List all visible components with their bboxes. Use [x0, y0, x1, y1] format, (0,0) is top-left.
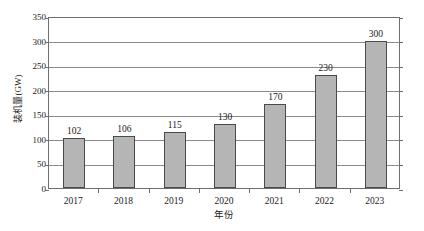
plot-area: 102106115130170230300	[48, 17, 400, 189]
bar	[365, 41, 387, 188]
y-axis-tick-label: 350	[33, 13, 47, 22]
x-axis-title: 年份	[48, 209, 400, 221]
bar	[214, 124, 236, 188]
x-axis-tick-labels: 2017201820192020202120222023	[48, 195, 400, 209]
bar-value-label: 130	[218, 112, 232, 122]
x-axis-tick-label: 2022	[315, 195, 334, 207]
y-axis-tick-label: 300	[33, 37, 47, 46]
x-axis-tick-label: 2023	[365, 195, 384, 207]
bar	[264, 104, 286, 188]
bar-value-label: 170	[268, 92, 282, 102]
bar-value-label: 102	[67, 126, 81, 136]
bar	[113, 136, 135, 188]
bar	[63, 138, 85, 188]
x-axis-tick-label: 2019	[164, 195, 183, 207]
x-axis-minor-tick	[98, 189, 99, 193]
x-axis-minor-tick	[350, 189, 351, 193]
bars-layer: 102106115130170230300	[49, 18, 399, 188]
x-axis-tick-label: 2018	[114, 195, 133, 207]
bar	[315, 75, 337, 188]
bar-value-label: 106	[117, 124, 131, 134]
y-axis-tick-mark-right	[399, 67, 403, 68]
x-axis-tick-label: 2021	[265, 195, 284, 207]
bar	[164, 132, 186, 189]
x-axis-tick-label: 2017	[64, 195, 83, 207]
bar-value-label: 300	[369, 29, 383, 39]
y-axis-tick-mark-right	[399, 165, 403, 166]
x-axis-tick-label: 2020	[215, 195, 234, 207]
y-axis-tick-mark-right	[399, 42, 403, 43]
x-axis-minor-tick	[299, 189, 300, 193]
y-axis-tick-label: 150	[33, 111, 47, 120]
y-axis-tick-label: 100	[33, 135, 47, 144]
x-axis-minor-tick	[249, 189, 250, 193]
x-axis-minor-tick	[149, 189, 150, 193]
y-axis-tick-label: 250	[33, 62, 47, 71]
x-axis-minor-ticks	[48, 189, 400, 194]
y-axis-tick-mark-right	[399, 91, 403, 92]
y-axis-tick-mark-right	[399, 140, 403, 141]
y-axis-tick-labels: 050100150200250300350	[22, 17, 46, 189]
bar-chart: 装机量(GW) 050100150200250300350 1021061151…	[0, 0, 424, 231]
y-axis-tick-mark-right	[399, 116, 403, 117]
x-axis-minor-tick	[199, 189, 200, 193]
y-axis-tick-label: 200	[33, 86, 47, 95]
bar-value-label: 230	[318, 63, 332, 73]
bar-value-label: 115	[168, 120, 182, 130]
y-axis-tick-mark-right	[399, 18, 403, 19]
